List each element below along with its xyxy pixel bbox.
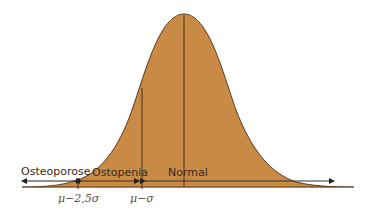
region-label-ostopenia: Ostopenia <box>92 167 148 178</box>
region-label-osteoporose: Osteoporose <box>21 166 90 177</box>
tick-mu-minus-sigma: μ−σ <box>130 193 154 204</box>
bell-curve-diagram <box>0 0 373 217</box>
bell-curve-area <box>22 14 354 187</box>
tick-mu-minus-2-5-sigma: μ−2,5σ <box>58 193 99 204</box>
region-label-normal: Normal <box>168 167 208 178</box>
